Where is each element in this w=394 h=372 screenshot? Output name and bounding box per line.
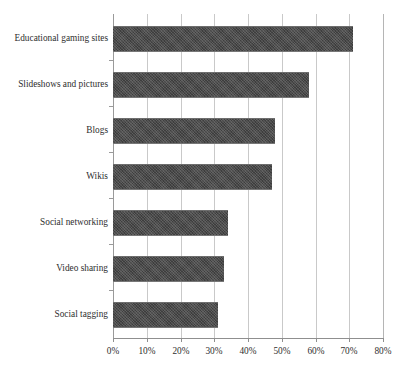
category-label-blogs: Blogs	[0, 125, 108, 136]
ytick-mark-3	[109, 152, 113, 153]
bar-educational-gaming-sites	[113, 26, 353, 52]
xtick-mark-30	[214, 338, 215, 342]
xtick-label-80: 80%	[363, 346, 394, 357]
bar-wikis	[113, 164, 272, 190]
gridline-80	[383, 14, 384, 338]
bar-chart: Educational gaming sites Slideshows and …	[0, 0, 394, 372]
bar-social-networking	[113, 210, 228, 236]
bar-video-sharing	[113, 256, 224, 282]
xtick-mark-40	[248, 338, 249, 342]
xtick-mark-20	[181, 338, 182, 342]
category-label-video-sharing: Video sharing	[0, 263, 108, 274]
xtick-mark-0	[113, 338, 114, 342]
category-label-educational-gaming-sites: Educational gaming sites	[0, 33, 108, 44]
ytick-mark-5	[109, 244, 113, 245]
xtick-mark-80	[383, 338, 384, 342]
xtick-mark-10	[147, 338, 148, 342]
gridline-70	[349, 14, 350, 338]
xtick-mark-50	[282, 338, 283, 342]
category-label-social-networking: Social networking	[0, 217, 108, 228]
category-label-social-tagging: Social tagging	[0, 309, 108, 320]
xtick-mark-70	[349, 338, 350, 342]
ytick-mark-4	[109, 198, 113, 199]
ytick-mark-1	[109, 60, 113, 61]
gridline-50	[282, 14, 283, 338]
category-label-slideshows-and-pictures: Slideshows and pictures	[0, 79, 108, 90]
category-label-wikis: Wikis	[0, 171, 108, 182]
ytick-mark-6	[109, 290, 113, 291]
bar-blogs	[113, 118, 275, 144]
ytick-mark-2	[109, 106, 113, 107]
bar-social-tagging	[113, 302, 218, 328]
bar-slideshows-and-pictures	[113, 72, 309, 98]
plot-area	[113, 14, 383, 338]
gridline-60	[316, 14, 317, 338]
xtick-mark-60	[316, 338, 317, 342]
